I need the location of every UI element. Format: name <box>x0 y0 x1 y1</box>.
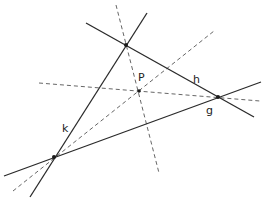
vertex-right-marker <box>216 95 220 99</box>
vertices <box>52 43 220 159</box>
dashed-lines <box>13 5 260 191</box>
point-p-marker <box>137 89 141 93</box>
vertex-bottom-left-marker <box>52 155 56 159</box>
bisector-left-line <box>13 31 214 191</box>
line-h-label: h <box>193 73 200 86</box>
line-g <box>4 82 261 176</box>
solid-lines <box>4 13 261 197</box>
bisector-right-line <box>39 83 260 101</box>
point-p-label: P <box>138 71 145 84</box>
line-g-label: g <box>206 104 213 117</box>
line-k <box>30 13 147 197</box>
bisector-top-line <box>116 5 159 173</box>
triangle-diagram: P g h k <box>0 0 266 201</box>
vertex-top-marker <box>124 43 128 47</box>
line-k-label: k <box>62 122 69 135</box>
